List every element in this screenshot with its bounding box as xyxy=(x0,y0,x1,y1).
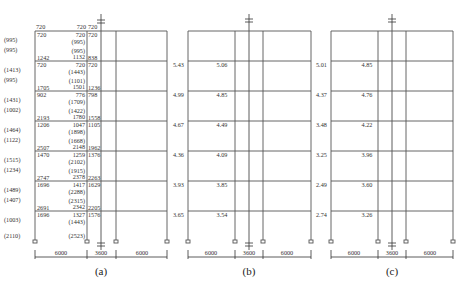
svg-text:1242: 1242 xyxy=(37,54,49,61)
svg-text:720: 720 xyxy=(76,31,85,38)
svg-text:902: 902 xyxy=(37,91,46,98)
top-label: 720 xyxy=(36,23,45,30)
svg-text:1206: 1206 xyxy=(37,121,49,128)
svg-text:4.99: 4.99 xyxy=(173,91,184,98)
svg-text:(1122): (1122) xyxy=(4,136,20,144)
span-label: 6000 xyxy=(424,249,436,256)
top-label: 720 xyxy=(77,23,86,30)
svg-text:3.85: 3.85 xyxy=(217,181,228,188)
svg-text:5.06: 5.06 xyxy=(217,61,228,68)
support-icon xyxy=(186,240,313,243)
svg-text:2378: 2378 xyxy=(73,173,85,180)
svg-text:3.65: 3.65 xyxy=(173,211,184,218)
caption-a: (a) xyxy=(95,265,108,278)
svg-text:1105: 1105 xyxy=(88,121,100,128)
span-label: 3600 xyxy=(95,249,107,256)
svg-text:(995): (995) xyxy=(4,76,17,84)
svg-text:(1464): (1464) xyxy=(4,126,21,134)
svg-text:2507: 2507 xyxy=(37,144,49,151)
svg-text:(2523): (2523) xyxy=(69,232,86,240)
span-label: 6000 xyxy=(348,249,360,256)
svg-text:(2110): (2110) xyxy=(4,232,20,240)
svg-text:4.36: 4.36 xyxy=(173,151,184,158)
svg-text:2205: 2205 xyxy=(88,204,100,211)
svg-text:3.96: 3.96 xyxy=(362,151,373,158)
svg-text:1576: 1576 xyxy=(88,211,100,218)
svg-text:5.01: 5.01 xyxy=(316,61,327,68)
svg-text:2.74: 2.74 xyxy=(316,211,327,218)
svg-text:3.54: 3.54 xyxy=(217,211,228,218)
svg-text:3.93: 3.93 xyxy=(173,181,184,188)
svg-text:(1407): (1407) xyxy=(4,196,21,204)
span-label: 3600 xyxy=(243,249,255,256)
caption-b: (b) xyxy=(243,265,256,278)
svg-text:4.67: 4.67 xyxy=(173,121,184,128)
svg-text:1047: 1047 xyxy=(73,121,85,128)
svg-text:(1234): (1234) xyxy=(4,166,21,174)
frame-diagrams: 6000 3600 6000 (a) 720 720 720 (995) (99… xyxy=(0,0,464,285)
svg-text:5.43: 5.43 xyxy=(173,61,184,68)
span-label: 3600 xyxy=(386,249,398,256)
svg-text:1327: 1327 xyxy=(73,211,85,218)
svg-text:(1431): (1431) xyxy=(4,96,21,104)
inner-values: 5.06 4.85 4.49 4.09 3.85 3.54 xyxy=(217,61,228,218)
frame-b: 6000 3600 6000 (b) 5.43 4.99 4.67 4.36 3… xyxy=(173,14,313,278)
frame-a: 6000 3600 6000 (a) 720 720 720 (995) (99… xyxy=(4,14,169,278)
svg-text:2342: 2342 xyxy=(73,203,85,210)
svg-text:720: 720 xyxy=(37,31,46,38)
svg-text:(1002): (1002) xyxy=(4,106,21,114)
svg-text:2.49: 2.49 xyxy=(316,181,327,188)
span-label: 6000 xyxy=(55,249,67,256)
svg-text:(2288): (2288) xyxy=(69,188,86,196)
svg-text:3.60: 3.60 xyxy=(362,181,373,188)
svg-text:(1443): (1443) xyxy=(69,218,86,226)
left-values: 5.01 4.37 3.48 3.25 2.49 2.74 xyxy=(316,61,327,218)
svg-text:3.26: 3.26 xyxy=(362,211,373,218)
left-values: 5.43 4.99 4.67 4.36 3.93 3.65 xyxy=(173,61,184,218)
svg-text:1962: 1962 xyxy=(88,144,100,151)
svg-text:1558: 1558 xyxy=(88,114,100,121)
svg-text:838: 838 xyxy=(88,54,97,61)
svg-text:1629: 1629 xyxy=(88,181,100,188)
svg-text:(995): (995) xyxy=(4,36,17,44)
svg-text:1417: 1417 xyxy=(73,181,85,188)
svg-text:1470: 1470 xyxy=(37,151,49,158)
top-label: 720 xyxy=(88,23,97,30)
svg-text:(1003): (1003) xyxy=(4,216,21,224)
svg-text:(1413): (1413) xyxy=(4,66,21,74)
svg-text:4.37: 4.37 xyxy=(316,91,327,98)
svg-text:1696: 1696 xyxy=(37,181,49,188)
span-label: 6000 xyxy=(136,249,148,256)
svg-text:(1515): (1515) xyxy=(4,156,21,164)
svg-text:2193: 2193 xyxy=(37,114,49,121)
left-labels: (995) (995) (1413) (995) (1431) (1002) (… xyxy=(4,36,21,240)
svg-text:798: 798 xyxy=(88,91,97,98)
svg-text:2148: 2148 xyxy=(73,143,85,150)
svg-text:3.48: 3.48 xyxy=(316,121,327,128)
svg-text:4.22: 4.22 xyxy=(362,121,373,128)
svg-text:(1709): (1709) xyxy=(69,98,86,106)
svg-text:1259: 1259 xyxy=(73,151,85,158)
svg-text:720: 720 xyxy=(88,31,97,38)
svg-text:1376: 1376 xyxy=(88,151,100,158)
svg-text:776: 776 xyxy=(76,91,85,98)
svg-text:4.85: 4.85 xyxy=(217,91,228,98)
svg-text:1132: 1132 xyxy=(73,53,85,60)
svg-text:1236: 1236 xyxy=(88,84,100,91)
svg-text:1780: 1780 xyxy=(73,113,85,120)
svg-text:(1489): (1489) xyxy=(4,186,21,194)
svg-text:720: 720 xyxy=(76,61,85,68)
svg-text:720: 720 xyxy=(88,61,97,68)
caption-c: (c) xyxy=(386,265,399,278)
svg-text:1705: 1705 xyxy=(37,84,49,91)
floor-values: 720 720 (995) 720 (995) 1242 1132 838 72… xyxy=(37,31,100,240)
svg-text:2263: 2263 xyxy=(88,174,100,181)
svg-text:(1898): (1898) xyxy=(69,128,86,136)
svg-text:2747: 2747 xyxy=(37,174,49,181)
svg-text:4.85: 4.85 xyxy=(362,61,373,68)
svg-text:1501: 1501 xyxy=(73,83,85,90)
svg-text:(995): (995) xyxy=(4,46,17,54)
svg-text:4.76: 4.76 xyxy=(362,91,373,98)
svg-text:(2102): (2102) xyxy=(69,158,86,166)
svg-text:1696: 1696 xyxy=(37,211,49,218)
